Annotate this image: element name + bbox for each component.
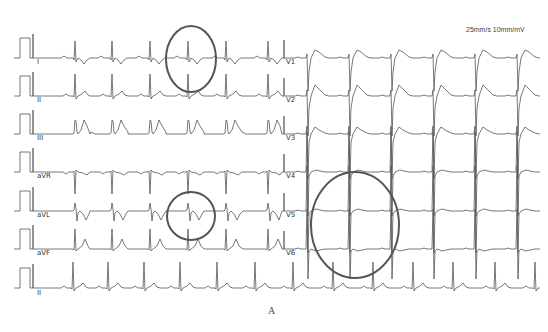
trace-v6: [284, 209, 540, 279]
lead-label-rhythm-ii: II: [37, 290, 41, 297]
lead-label-v1: V1: [286, 59, 295, 66]
lead-separator: [282, 154, 284, 172]
ecg-tracing: [0, 0, 548, 332]
lead-V5-V6-circle: [311, 172, 399, 278]
lead-I-circle: [166, 26, 216, 92]
trace-v4: [284, 132, 540, 216]
trace-v2: [284, 85, 540, 136]
trace-iii: [14, 110, 282, 134]
panel-label: A: [268, 305, 275, 316]
lead-label-avr: aVR: [37, 173, 51, 180]
lead-label-avl: aVL: [37, 212, 50, 219]
trace-rhythm-ii: [14, 262, 540, 291]
annotation-circles: [166, 26, 399, 278]
trace-avr: [14, 148, 282, 194]
lead-label-ii: II: [37, 97, 41, 104]
trace-avl: [14, 187, 282, 221]
trace-v5: [284, 166, 540, 253]
speed-gain-label: 25mm/s 10mm/mV: [466, 26, 525, 33]
lead-label-v3: V3: [286, 135, 295, 142]
lead-separator: [282, 40, 284, 58]
trace-v3: [284, 126, 540, 179]
lead-separator: [282, 78, 284, 96]
trace-avf: [14, 225, 282, 251]
trace-v1: [284, 50, 540, 91]
lead-separator: [282, 116, 284, 134]
lead-separator: [282, 231, 284, 249]
lead-label-v4: V4: [286, 173, 295, 180]
trace-i: [14, 34, 282, 64]
ecg-traces: [14, 34, 540, 291]
lead-label-i: I: [37, 59, 39, 66]
lead-label-v6: V6: [286, 250, 295, 257]
lead-label-iii: III: [37, 135, 43, 142]
lead-label-avf: aVF: [37, 250, 50, 257]
lead-label-v5: V5: [286, 212, 295, 219]
trace-ii: [14, 72, 282, 99]
lead-label-v2: V2: [286, 97, 295, 104]
lead-separator: [282, 193, 284, 211]
